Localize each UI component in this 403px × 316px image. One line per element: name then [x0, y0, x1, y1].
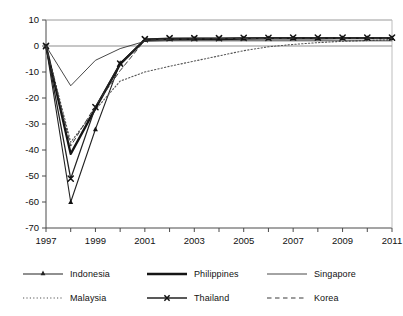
y-tick-label: -40 [25, 144, 39, 155]
plot-area: 100-10-20-30-40-50-60-701997199920012003… [0, 0, 403, 250]
y-tick-label: -10 [25, 66, 39, 77]
legend-item-malaysia[interactable]: Malaysia [22, 292, 142, 304]
legend-item-philippines[interactable]: Philippines [142, 268, 262, 280]
y-tick-label: -20 [25, 92, 39, 103]
legend-item-singapore[interactable]: Singapore [262, 268, 382, 280]
x-tick-label: 2009 [332, 235, 353, 246]
y-tick-label: -70 [25, 222, 39, 233]
legend-item-korea[interactable]: Korea [262, 292, 382, 304]
x-tick-label: 2007 [283, 235, 304, 246]
legend-label-indonesia: Indonesia [70, 269, 110, 279]
line-triangle-marker-icon [22, 268, 64, 280]
x-tick-label: 2011 [382, 235, 402, 246]
legend-label-korea: Korea [314, 293, 339, 303]
line-thin-icon [266, 268, 308, 280]
y-tick-label: 10 [28, 14, 39, 25]
x-tick-label: 1999 [85, 235, 106, 246]
legend-item-thailand[interactable]: Thailand [142, 292, 262, 304]
x-tick-label: 2001 [134, 235, 155, 246]
line-thick-icon [146, 268, 188, 280]
line-dotted-icon [22, 292, 64, 304]
axes-layer [42, 20, 392, 232]
line-chart-svg: 100-10-20-30-40-50-60-701997199920012003… [0, 0, 403, 250]
x-tick-label: 2003 [184, 235, 205, 246]
legend-label-malaysia: Malaysia [70, 293, 106, 303]
legend-label-singapore: Singapore [314, 269, 356, 279]
legend-item-indonesia[interactable]: Indonesia [22, 268, 142, 280]
series-singapore [46, 41, 392, 86]
x-tick-label: 1997 [35, 235, 56, 246]
series-layer [43, 35, 394, 204]
y-tick-label: 0 [34, 40, 39, 51]
line-x-marker-icon [146, 292, 188, 304]
series-indonesia [44, 35, 395, 204]
y-tick-label: -30 [25, 118, 39, 129]
legend-label-philippines: Philippines [194, 269, 239, 279]
line-dashed-icon [266, 292, 308, 304]
y-tick-label: -50 [25, 170, 39, 181]
series-malaysia [46, 40, 392, 142]
chart-figure: 100-10-20-30-40-50-60-701997199920012003… [0, 0, 403, 316]
y-tick-label: -60 [25, 196, 39, 207]
chart-legend: Indonesia Philippines Singapore Malaysia [22, 262, 382, 310]
legend-label-thailand: Thailand [194, 293, 229, 303]
tick-label-layer: 100-10-20-30-40-50-60-701997199920012003… [25, 14, 402, 245]
series-korea [46, 38, 392, 146]
series-thailand [43, 35, 394, 181]
x-tick-label: 2005 [233, 235, 254, 246]
